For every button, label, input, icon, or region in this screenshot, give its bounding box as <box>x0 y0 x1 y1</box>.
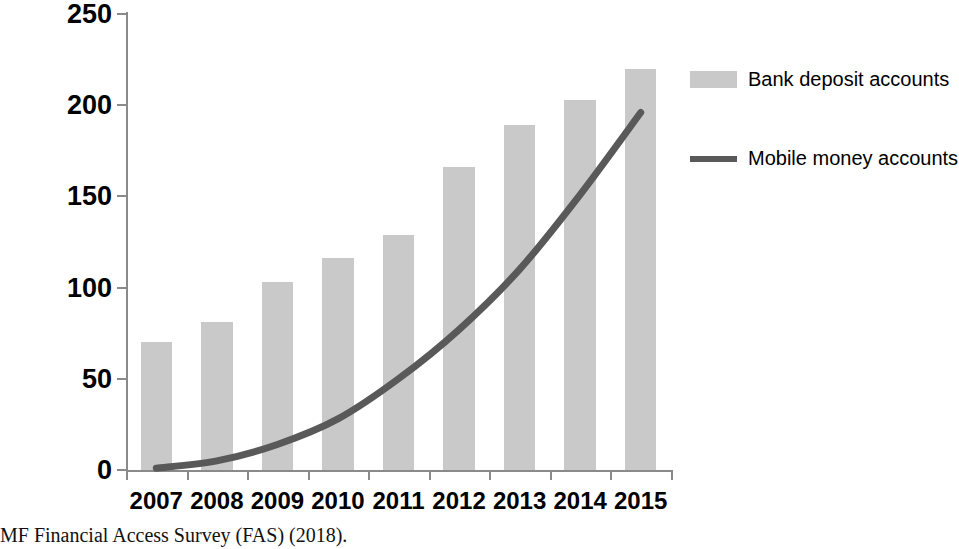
y-axis-tick <box>117 195 126 197</box>
y-axis-tick-label: 50 <box>82 363 112 394</box>
x-axis-tick-label: 2010 <box>311 487 364 515</box>
chart-legend: Bank deposit accounts Mobile money accou… <box>690 68 952 226</box>
x-axis-tick <box>308 470 310 480</box>
x-axis-tick <box>187 470 189 480</box>
legend-line-swatch-icon <box>690 156 737 162</box>
x-axis-tick <box>368 470 370 480</box>
legend-item-bank-deposit-accounts: Bank deposit accounts <box>690 68 952 91</box>
y-axis-tick-label: 0 <box>97 455 112 486</box>
x-axis-tick <box>429 470 431 480</box>
x-axis-tick <box>550 470 552 480</box>
y-axis-tick-label: 200 <box>67 90 112 121</box>
series-path <box>156 112 640 468</box>
y-axis-tick-label: 150 <box>67 181 112 212</box>
y-axis-tick <box>117 104 126 106</box>
x-axis-tick-label: 2009 <box>251 487 304 515</box>
x-axis-tick-label: 2013 <box>493 487 546 515</box>
x-axis-tick <box>126 470 128 480</box>
x-axis-tick-label: 2008 <box>190 487 243 515</box>
legend-label-mobile-money-accounts: Mobile money accounts <box>748 147 958 170</box>
x-axis-tick-label: 2011 <box>372 487 424 515</box>
y-axis-tick <box>117 13 126 15</box>
chart-figure: 250200150100500 200720082009201020112012… <box>0 0 959 549</box>
x-axis-tick <box>610 470 612 480</box>
figure-source-caption: MF Financial Access Survey (FAS) (2018). <box>0 524 347 547</box>
x-axis-tick-label: 2012 <box>432 487 485 515</box>
x-axis-line <box>126 470 672 472</box>
legend-label-bank-deposit-accounts: Bank deposit accounts <box>748 68 949 91</box>
x-axis-tick <box>671 470 673 480</box>
x-axis-tick-label: 2015 <box>614 487 667 515</box>
y-axis-tick <box>117 469 126 471</box>
x-axis-tick <box>247 470 249 480</box>
y-axis-tick-label: 100 <box>67 272 112 303</box>
y-axis-tick-label: 250 <box>67 0 112 30</box>
line-series-mobile-money-accounts <box>126 14 671 470</box>
x-axis-tick-label: 2014 <box>553 487 606 515</box>
legend-bar-swatch-icon <box>690 71 737 88</box>
y-axis-tick <box>117 287 126 289</box>
y-axis-tick <box>117 378 126 380</box>
legend-item-mobile-money-accounts: Mobile money accounts <box>690 147 952 170</box>
x-axis-tick <box>489 470 491 480</box>
x-axis-tick-label: 2007 <box>130 487 183 515</box>
